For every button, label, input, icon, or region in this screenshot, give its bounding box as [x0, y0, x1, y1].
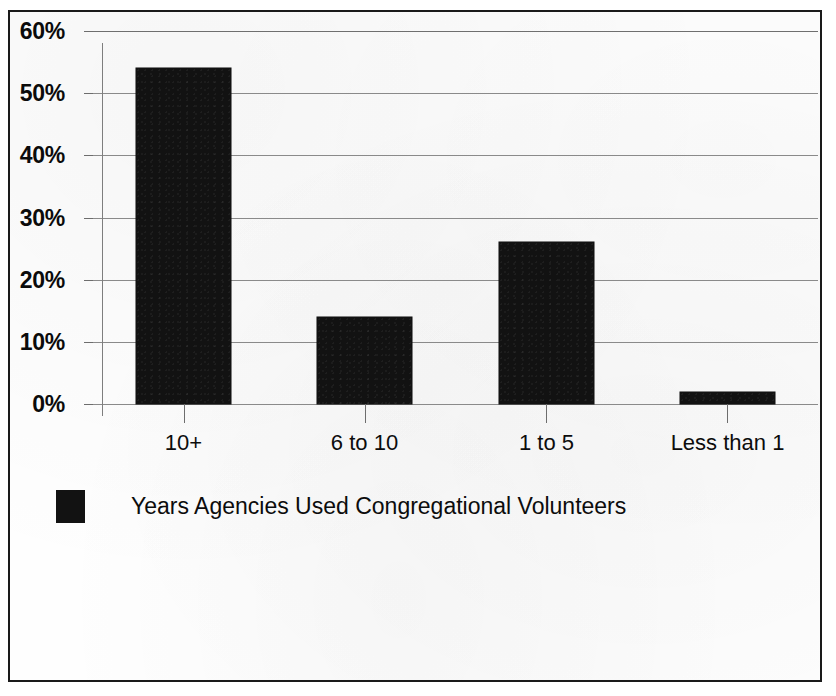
y-axis-label: 30%	[20, 207, 65, 230]
bar-1-to-5	[499, 242, 594, 404]
y-axis-label: 40%	[20, 144, 65, 167]
y-axis-label: 10%	[20, 331, 65, 354]
legend-label-series-1: Years Agencies Used Congregational Volun…	[131, 495, 626, 518]
y-axis-tick	[84, 342, 93, 343]
y-axis-label: 20%	[20, 269, 65, 292]
bar-10-	[136, 68, 231, 404]
legend-color-swatch-series-1	[56, 490, 85, 523]
x-axis-tick	[365, 404, 366, 423]
y-axis-tick	[84, 218, 93, 219]
y-axis-label: 50%	[20, 82, 65, 105]
x-axis-tick	[727, 404, 728, 423]
x-axis-label: 10+	[93, 432, 274, 454]
chart-frame: 60%50%40%30%20%10%0% 10+6 to 101 to 5Les…	[8, 10, 822, 682]
x-axis-label: 6 to 10	[274, 432, 455, 454]
y-axis-label: 0%	[32, 393, 65, 416]
x-axis-tick	[184, 404, 185, 423]
y-axis-tick	[84, 93, 93, 94]
x-axis-label: Less than 1	[637, 432, 818, 454]
y-axis-tick	[84, 155, 93, 156]
chart-legend: Years Agencies Used Congregational Volun…	[56, 490, 626, 523]
bar-6-to-10	[317, 317, 412, 404]
y-axis-label: 60%	[20, 20, 65, 43]
y-axis-tick	[84, 31, 93, 32]
bar-less-than-1	[680, 392, 775, 404]
y-axis-tick	[84, 404, 93, 405]
x-axis-tick	[546, 404, 547, 423]
x-axis-label: 1 to 5	[456, 432, 637, 454]
y-axis-tick	[84, 280, 93, 281]
